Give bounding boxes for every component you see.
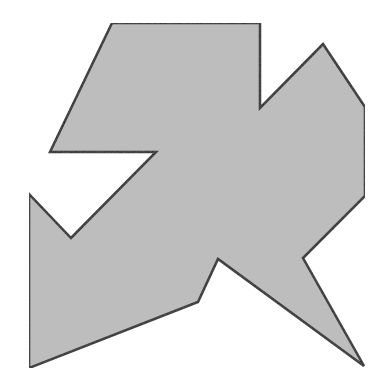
diagram-canvas [0,0,387,388]
irregular-polygon-shape [29,23,365,368]
polygon-diagram [0,0,387,388]
